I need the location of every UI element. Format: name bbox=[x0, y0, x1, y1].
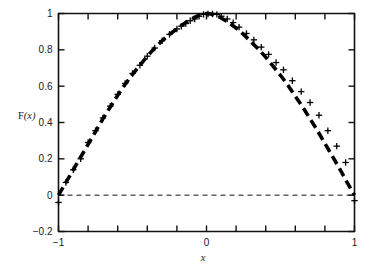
y-axis-title: F(x) bbox=[18, 110, 36, 122]
x-tick-label: 1 bbox=[352, 237, 358, 248]
y-tick-label: −0.2 bbox=[33, 226, 53, 237]
chart-figure: −0.200.20.40.60.81 −101 F(x) x bbox=[0, 0, 371, 269]
x-tick-label: 0 bbox=[204, 237, 210, 248]
y-tick-label: 0.6 bbox=[39, 81, 53, 92]
y-tick-label: 0.2 bbox=[39, 153, 53, 164]
y-tick-label: 1 bbox=[47, 8, 53, 19]
y-tick-label: 0.8 bbox=[39, 44, 53, 55]
y-tick-label: 0.4 bbox=[39, 117, 53, 128]
x-tick-label: −1 bbox=[53, 237, 65, 248]
y-tick-label: 0 bbox=[47, 190, 53, 201]
chart-background bbox=[0, 0, 371, 269]
x-axis-title: x bbox=[200, 252, 206, 263]
plot-canvas: −0.200.20.40.60.81 −101 F(x) x bbox=[0, 0, 371, 269]
